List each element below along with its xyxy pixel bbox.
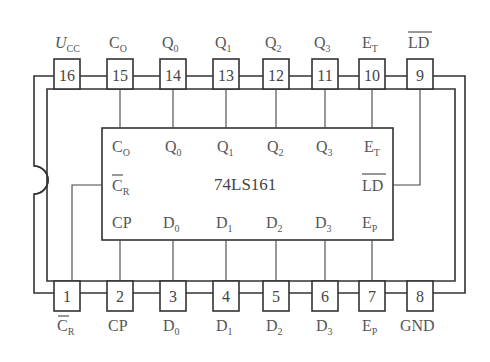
pin-7-number: 7 [368, 288, 376, 305]
pin-13-label: Q1 [215, 34, 232, 54]
pin-7-label: EP [362, 317, 378, 337]
pin-6-label: D3 [316, 317, 333, 337]
pin-15-label: CO [109, 34, 127, 54]
pin-12-number: 12 [268, 67, 284, 84]
pinout-diagram: 16 15 14 13 12 11 10 9 UCC CO Q0 Q1 Q2 Q… [0, 0, 490, 362]
pin-10-number: 10 [364, 67, 380, 84]
pin-14-label: Q0 [162, 34, 179, 54]
pin-15-number: 15 [112, 67, 128, 84]
pin-13-number: 13 [218, 67, 234, 84]
pin-12-label: Q2 [265, 34, 282, 54]
pin-5-label: D2 [266, 317, 283, 337]
pin-3-number: 3 [169, 288, 177, 305]
pin-2-number: 2 [116, 288, 124, 305]
top-pin-labels: UCC CO Q0 Q1 Q2 Q3 ET LD [55, 32, 432, 54]
chip-name: 74LS161 [214, 175, 276, 194]
pin-4-label: D1 [216, 317, 233, 337]
pin-1-label: CR [57, 317, 75, 337]
pin-5-number: 5 [272, 288, 280, 305]
pin-10-label: ET [362, 34, 378, 54]
pin-16-label: UCC [55, 34, 80, 54]
pin-3-label: D0 [163, 317, 180, 337]
pin-2-label: CP [108, 317, 128, 334]
pin-16-number: 16 [59, 67, 75, 84]
bottom-pin-row: 1 2 3 4 5 6 7 8 [54, 281, 433, 311]
pin-11-number: 11 [317, 67, 332, 84]
bottom-pin-labels: CR CP D0 D1 D2 D3 EP GND [57, 316, 435, 337]
pin-8-label: GND [400, 317, 435, 334]
pin-8-number: 8 [416, 288, 424, 305]
ic-label-ld: LD [362, 177, 383, 194]
pin-11-label: Q3 [314, 34, 331, 54]
top-pin-row: 16 15 14 13 12 11 10 9 [54, 59, 433, 89]
wire-pin-1 [72, 185, 102, 281]
pin-1-number: 1 [63, 288, 71, 305]
pin-9-label: LD [408, 34, 429, 51]
pin-6-number: 6 [321, 288, 329, 305]
pin-14-number: 14 [165, 67, 181, 84]
pin-9-number: 9 [416, 67, 424, 84]
wire-pin-9 [393, 89, 420, 185]
pin-4-number: 4 [222, 288, 230, 305]
notch-icon [34, 166, 48, 194]
ic-label-cp: CP [112, 214, 132, 231]
